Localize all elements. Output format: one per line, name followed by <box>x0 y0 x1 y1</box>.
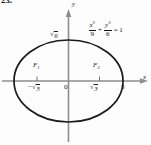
focus-2-label: F2 <box>93 62 100 70</box>
x-term-fraction: x2 9 <box>89 22 97 38</box>
y-term-denominator: 6 <box>106 31 110 39</box>
x-axis-label: x <box>143 74 146 81</box>
radical-sqrt6: √6 <box>50 31 58 40</box>
equals-operator: = <box>114 27 118 34</box>
tick-label-vertex-3: 3 <box>121 84 125 91</box>
focus-2-subscript: 2 <box>97 65 100 70</box>
focus-1-subscript: 1 <box>37 65 40 70</box>
tick-label-neg-sqrt3: −√3 <box>28 84 40 93</box>
origin-label: 0 <box>64 84 68 91</box>
radicand: 3 <box>94 84 99 93</box>
radicand: 3 <box>36 84 41 93</box>
radical-neg-sqrt3: √3 <box>32 84 40 93</box>
problem-number: 23. <box>1 0 12 5</box>
tick-label-sqrt3: √3 <box>90 84 98 93</box>
radicand: 6 <box>54 31 59 40</box>
ellipse-plot <box>0 0 151 145</box>
y-exponent: 2 <box>108 20 111 25</box>
x-exponent: 2 <box>93 20 96 25</box>
ellipse-figure: 23. y x 0 F1 F2 −√3 √3 3 √6 x2 9 + y2 6 … <box>0 0 151 145</box>
y-axis-label: y <box>72 1 75 8</box>
radical-sqrt3: √3 <box>90 84 98 93</box>
plus-operator: + <box>98 27 102 34</box>
y-term-fraction: y2 6 <box>104 22 112 38</box>
x-term-denominator: 9 <box>91 31 95 39</box>
y-axis-arrowhead <box>66 9 72 17</box>
equation-right-side: 1 <box>119 27 123 34</box>
tick-label-sqrt6: √6 <box>50 31 58 40</box>
focus-1-label: F1 <box>33 62 40 70</box>
ellipse-equation: x2 9 + y2 6 = 1 <box>88 22 123 38</box>
